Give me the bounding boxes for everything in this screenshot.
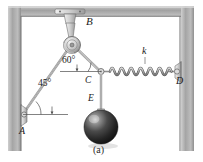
ceiling-highlight — [8, 6, 194, 8]
label-angle-60: 60° — [62, 56, 75, 66]
figure-caption: (a) — [93, 145, 104, 155]
label-point-a: A — [19, 126, 25, 136]
frame-fade-top — [0, 0, 203, 6]
label-point-c: C — [85, 76, 91, 86]
mount-bolt-left — [59, 11, 61, 13]
physics-figure: B C E A D k 60° 45° (a) — [0, 0, 203, 162]
label-point-e: E — [88, 94, 94, 104]
bracket-d-pin — [174, 69, 179, 74]
label-angle-45: 45° — [38, 79, 51, 89]
ball-specular-highlight — [89, 115, 100, 123]
mount-collar — [64, 14, 76, 24]
label-point-b: B — [86, 16, 93, 27]
label-point-d: D — [176, 76, 183, 86]
mount-bolt-right — [79, 11, 81, 13]
label-spring-constant: k — [142, 46, 146, 56]
pulley-axle — [70, 43, 74, 47]
diagram-canvas — [0, 0, 203, 162]
ball-body — [84, 110, 118, 144]
pulley-b — [64, 37, 81, 54]
